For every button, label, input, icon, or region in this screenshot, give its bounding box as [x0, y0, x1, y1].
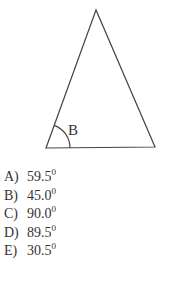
option-letter: B) [4, 187, 27, 206]
degree-symbol: 0 [52, 241, 57, 251]
option-letter: D) [4, 224, 27, 243]
option-letter: C) [4, 205, 27, 224]
degree-symbol: 0 [52, 204, 57, 214]
option-value: 30.5 [27, 243, 52, 258]
triangle [46, 10, 155, 148]
answer-options: A)59.50 B)45.00 C)90.00 D)89.50 E)30.50 [4, 168, 56, 261]
option-d[interactable]: D)89.50 [4, 224, 56, 243]
option-value: 89.5 [27, 225, 52, 240]
degree-symbol: 0 [52, 167, 57, 177]
option-e[interactable]: E)30.50 [4, 242, 56, 261]
degree-symbol: 0 [52, 186, 57, 196]
option-value: 45.0 [27, 188, 52, 203]
option-b[interactable]: B)45.00 [4, 187, 56, 206]
option-a[interactable]: A)59.50 [4, 168, 56, 187]
option-value: 59.5 [27, 169, 52, 184]
option-c[interactable]: C)90.00 [4, 205, 56, 224]
option-value: 90.0 [27, 206, 52, 221]
triangle-diagram: B [0, 0, 170, 160]
angle-label: B [68, 122, 78, 138]
option-letter: A) [4, 168, 27, 187]
degree-symbol: 0 [52, 223, 57, 233]
option-letter: E) [4, 242, 27, 261]
